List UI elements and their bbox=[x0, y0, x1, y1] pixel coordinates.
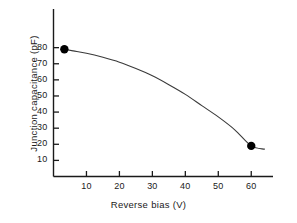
x-tick-label: 10 bbox=[75, 181, 97, 191]
x-tick-label: 30 bbox=[141, 181, 163, 191]
x-tick-label: 60 bbox=[240, 181, 262, 191]
high-bias-data-point bbox=[247, 142, 255, 150]
capacitance-vs-bias-chart: 1020304050607080102030405060 Junction ca… bbox=[0, 0, 297, 223]
series-line bbox=[64, 49, 264, 149]
y-axis-title: Junction capacitance (pF) bbox=[28, 14, 39, 174]
x-tick-label: 20 bbox=[108, 181, 130, 191]
axes bbox=[54, 9, 274, 177]
x-tick-label: 40 bbox=[174, 181, 196, 191]
data-markers bbox=[60, 45, 255, 150]
tick-marks bbox=[54, 48, 252, 177]
x-axis-title: Reverse bias (V) bbox=[0, 199, 297, 210]
low-bias-data-point bbox=[60, 45, 68, 53]
x-tick-label: 50 bbox=[207, 181, 229, 191]
data-curve bbox=[64, 49, 264, 149]
